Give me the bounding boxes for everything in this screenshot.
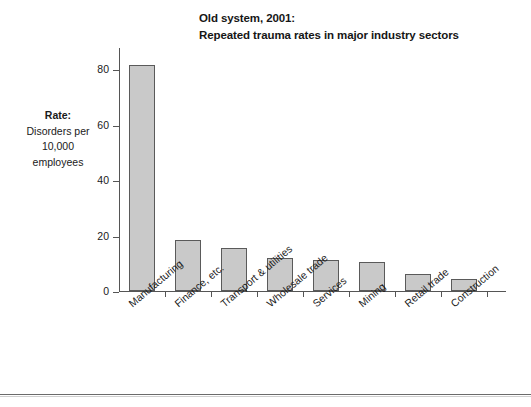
title-line-2: Repeated trauma rates in major industry …	[199, 27, 529, 44]
title-line-1: Old system, 2001:	[199, 10, 529, 27]
page-title: Old system, 2001: Repeated trauma rates …	[199, 10, 529, 44]
y-tick-label: 80	[97, 63, 109, 75]
footer-divider-shadow	[0, 396, 531, 397]
plot-area: 020406080	[119, 48, 506, 292]
y-axis-caption-line-3: employees	[8, 155, 108, 171]
y-axis-caption-line-1: Disorders per	[8, 124, 108, 140]
y-axis-line	[119, 48, 120, 292]
y-axis-caption-head: Rate:	[8, 108, 108, 124]
y-axis-caption: Rate: Disorders per 10,000 employees	[8, 108, 108, 170]
y-tick-label: 40	[97, 174, 109, 186]
y-tick: 80	[113, 70, 119, 71]
x-axis-labels: ManufacturingFinance, etc.Transport & ut…	[119, 294, 519, 394]
footer-divider	[0, 394, 531, 395]
y-axis-caption-line-2: 10,000	[8, 139, 108, 155]
y-tick-label: 20	[97, 230, 109, 242]
y-tick-label: 0	[103, 285, 109, 297]
x-axis-line	[119, 291, 506, 292]
bar	[129, 65, 155, 291]
y-tick-label: 60	[97, 119, 109, 131]
y-tick: 60	[113, 126, 119, 127]
chart-page: { "title": { "line1": "Old system, 2001:…	[0, 0, 531, 407]
y-tick: 40	[113, 181, 119, 182]
y-tick: 20	[113, 237, 119, 238]
y-tick: 0	[113, 292, 119, 293]
